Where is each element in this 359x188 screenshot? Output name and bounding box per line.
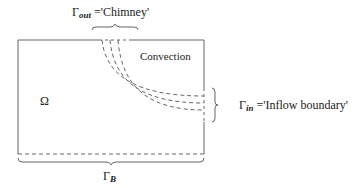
inflow-symbol: Γ — [239, 98, 246, 112]
outflow-text: ='Chimney' — [91, 5, 149, 19]
bottom-brace — [18, 158, 204, 165]
inflow-text: ='Inflow boundary' — [253, 98, 347, 112]
domain-omega-label: Ω — [40, 95, 49, 107]
bottom-symbol: Γ — [103, 169, 110, 183]
bottom-label: ΓB — [103, 170, 116, 184]
domain-diagram — [0, 0, 359, 188]
inflow-brace — [212, 88, 218, 122]
outflow-label: Γout ='Chimney' — [72, 6, 149, 20]
convection-label: Convection — [140, 51, 191, 62]
outflow-brace — [92, 24, 138, 30]
outflow-subscript: out — [79, 10, 91, 20]
bottom-subscript: B — [110, 174, 116, 184]
inflow-label: Γin ='Inflow boundary' — [239, 99, 348, 113]
outflow-symbol: Γ — [72, 5, 79, 19]
